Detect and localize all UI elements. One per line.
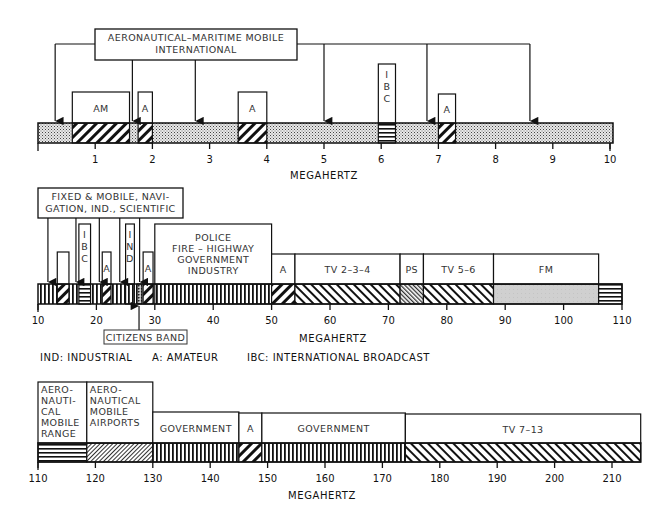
band-label: A (280, 264, 287, 275)
axis-tick-label: 110 (28, 473, 47, 484)
band-segment (102, 284, 111, 304)
band-label: A (145, 263, 152, 274)
axis-tick-label: 200 (545, 473, 564, 484)
band-label: MOBILE (41, 417, 80, 428)
band-segment (238, 123, 267, 143)
axis-tick-label: 9 (550, 154, 556, 165)
band-segment (295, 284, 400, 304)
axis-tick-label: 140 (201, 473, 220, 484)
band-label: C (81, 253, 88, 264)
axis-tick-label: 60 (324, 315, 337, 326)
axis-tick-label: 80 (440, 315, 453, 326)
band-label: FM (539, 264, 553, 275)
axis-tick-label: 4 (264, 154, 270, 165)
band-label: PS (405, 264, 418, 275)
axis-tick-label: 40 (207, 315, 220, 326)
legend-industrial: IND: INDUSTRIAL (40, 352, 132, 363)
band-label: INDUSTRY (188, 265, 239, 276)
axis-tick-label: 110 (612, 315, 631, 326)
band-label: A (103, 263, 110, 274)
band-segment (138, 123, 152, 143)
axis-tick-label: 210 (602, 473, 621, 484)
band-segment (87, 443, 153, 462)
axis-unit-label: MEGAHERTZ (299, 333, 367, 344)
band-label-box (57, 252, 69, 284)
band-segment (400, 284, 423, 304)
band-label: FIRE – HIGHWAY (172, 243, 254, 254)
panel-panel-110-215: AERO-NAUTI-CALMOBILERANGEAERO-NAUTICALMO… (28, 382, 640, 501)
axis-tick-label: 10 (32, 315, 45, 326)
callout-text: GATION, IND., SCIENTIFIC (45, 203, 175, 214)
callout-text: AERONAUTICAL–MARITIME MOBILE (108, 32, 284, 43)
band-segment (494, 284, 599, 304)
axis-unit-label: MEGAHERTZ (290, 170, 358, 181)
band-segment (239, 443, 262, 462)
band-label: TV 2–3–4 (323, 264, 370, 275)
band-label: B (383, 81, 390, 92)
band-segment (262, 443, 406, 462)
axis-tick-label: 2 (149, 154, 155, 165)
axis-tick-label: 1 (92, 154, 98, 165)
axis-tick-label: 150 (258, 473, 277, 484)
legend-amateur: A: AMATEUR (152, 352, 218, 363)
axis-tick-label: 7 (435, 154, 441, 165)
band-label: CAL (41, 406, 61, 417)
band-segment (272, 284, 295, 304)
band-label: I (385, 69, 388, 80)
band-segment (438, 123, 455, 143)
band-segment (57, 284, 69, 304)
band-segment (72, 123, 129, 143)
axis-tick-label: 3 (206, 154, 212, 165)
axis-tick-label: 90 (499, 315, 512, 326)
band-label: I (128, 229, 131, 240)
band-label: TV 7–13 (502, 424, 544, 435)
axis-unit-label: MEGAHERTZ (288, 490, 356, 501)
band-label: AERO- (90, 384, 122, 395)
band-segment (155, 284, 272, 304)
callout-text: INTERNATIONAL (155, 44, 237, 55)
band-label: AM (93, 103, 109, 114)
legend-international-broadcast: IBC: INTERNATIONAL BROADCAST (247, 352, 430, 363)
band-label: AERO- (41, 384, 73, 395)
band-label: N (126, 241, 134, 252)
axis-tick-label: 170 (373, 473, 392, 484)
band-label: NAUTICAL (90, 395, 141, 406)
band-label: TV 5–6 (440, 264, 476, 275)
band-segment (378, 123, 395, 143)
axis-tick-label: 120 (86, 473, 105, 484)
axis-tick-label: 50 (265, 315, 278, 326)
band-label: MOBILE (90, 406, 129, 417)
band-label: NAUTI- (41, 395, 76, 406)
axis-tick-label: 30 (148, 315, 161, 326)
band-label: I (83, 229, 86, 240)
band-segment (79, 284, 91, 304)
panel-panel-0-10: AMAAIBCA12345678910MEGAHERTZAERONAUTICAL… (38, 29, 616, 181)
band-label: RANGE (41, 428, 76, 439)
callout-text: FIXED & MOBILE, NAVI- (52, 191, 170, 202)
axis-tick-label: 8 (492, 154, 498, 165)
legend: IND: INDUSTRIALA: AMATEURIBC: INTERNATIO… (40, 352, 430, 363)
band-label: A (247, 423, 254, 434)
band-segment (143, 284, 153, 304)
band-label: A (444, 104, 451, 115)
band-label: C (383, 93, 390, 104)
frequency-allocation-diagram: AMAAIBCA12345678910MEGAHERTZAERONAUTICAL… (0, 0, 670, 524)
axis-tick-label: 5 (321, 154, 327, 165)
axis-tick-label: 70 (382, 315, 395, 326)
band-segment (423, 284, 493, 304)
axis-tick-label: 180 (430, 473, 449, 484)
band-label: GOVERNMENT (160, 423, 232, 434)
band-segment (153, 443, 239, 462)
band-label: GOVERNMENT (298, 423, 370, 434)
axis-tick-label: 190 (488, 473, 507, 484)
axis-tick-label: 130 (143, 473, 162, 484)
band-label: D (126, 253, 134, 264)
axis-tick-label: 10 (604, 154, 617, 165)
band-label: B (81, 241, 88, 252)
band-segment (137, 284, 142, 304)
axis-tick-label: 20 (90, 315, 103, 326)
band-label: A (249, 103, 256, 114)
axis-tick-label: 100 (554, 315, 573, 326)
axis-tick-label: 160 (315, 473, 334, 484)
band-segment (405, 443, 640, 462)
